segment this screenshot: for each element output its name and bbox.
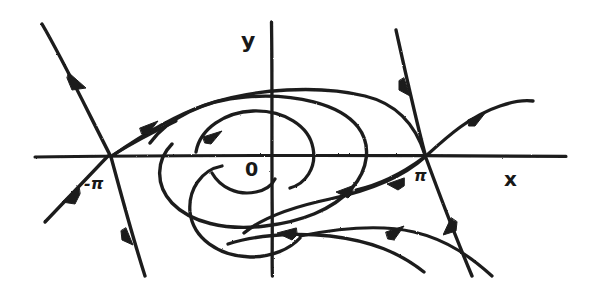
separatrix-upper: [112, 90, 425, 156]
manifold-negpi-stable-out: [111, 157, 145, 276]
flow-arrow-1: [67, 73, 86, 90]
negative-pi-tick-label: -π: [84, 176, 103, 192]
y-axis-line: [272, 22, 273, 276]
flow-arrow-3: [62, 188, 80, 204]
manifold-pi-out-lowerright: [426, 158, 472, 276]
trajectory-lower-outflow: [228, 234, 424, 272]
manifold-pi-unstable-upright: [427, 101, 533, 155]
flow-arrow-10: [468, 112, 486, 126]
y-axis-label: y: [241, 30, 255, 52]
origin-label: 0: [245, 160, 258, 179]
x-axis-label: x: [504, 169, 517, 189]
manifold-pi-in-upperleft: [396, 30, 425, 154]
flow-arrow-8: [277, 228, 297, 240]
trajectory-inner-curl: [212, 173, 275, 193]
pi-tick-label: π: [414, 168, 427, 184]
phase-portrait-canvas: [0, 0, 595, 296]
phase-portrait-figure: y x 0 π -π: [0, 0, 595, 296]
